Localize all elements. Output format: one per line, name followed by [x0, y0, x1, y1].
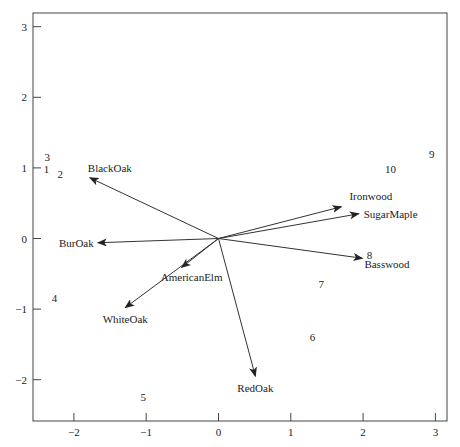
point-label: 8	[367, 249, 373, 261]
y-tick-label: 0	[22, 233, 28, 245]
vector-basswood: Basswood	[219, 239, 411, 271]
vector-buroak: BurOak	[59, 237, 219, 249]
vector-label: BlackOak	[88, 162, 132, 174]
arrow-icon	[219, 239, 363, 259]
vector-label: AmericanElm	[161, 271, 223, 283]
vector-americanelm: AmericanElm	[161, 239, 223, 284]
point-label: 3	[44, 151, 50, 163]
arrow-icon	[219, 214, 359, 239]
x-axis: −2−10123	[68, 413, 439, 438]
vector-label: SugarMaple	[364, 208, 418, 220]
x-tick-label: −1	[140, 426, 152, 438]
y-tick-label: 2	[22, 91, 28, 103]
point-label: 2	[57, 168, 63, 180]
y-tick-label: −1	[15, 303, 27, 315]
arrow-icon	[219, 207, 342, 239]
point-label: 10	[385, 163, 397, 175]
vector-label: WhiteOak	[103, 313, 149, 325]
arrow-icon	[98, 239, 219, 243]
observation-points: 12345678910	[44, 148, 435, 404]
y-tick-label: −2	[15, 374, 27, 386]
vector-blackoak: BlackOak	[88, 162, 219, 239]
vector-label: Ironwood	[349, 190, 392, 202]
x-tick-label: 3	[433, 426, 439, 438]
y-tick-label: 3	[22, 21, 28, 33]
x-tick-label: −2	[68, 426, 80, 438]
vector-label: RedOak	[237, 382, 274, 394]
x-tick-label: 0	[216, 426, 222, 438]
x-tick-label: 1	[288, 426, 294, 438]
point-label: 1	[44, 163, 50, 175]
biplot-chart: −2−10123 −2−10123 BlackOakBurOakAmerican…	[0, 0, 460, 447]
point-label: 4	[52, 292, 58, 304]
point-label: 6	[310, 331, 316, 343]
loading-vectors: BlackOakBurOakAmericanElmWhiteOakRedOakI…	[59, 162, 418, 394]
x-tick-label: 2	[360, 426, 366, 438]
arrow-icon	[90, 178, 219, 239]
point-label: 5	[141, 391, 147, 403]
y-tick-label: 1	[22, 162, 28, 174]
arrow-icon	[219, 239, 256, 377]
vector-label: BurOak	[59, 237, 94, 249]
point-label: 7	[318, 278, 324, 290]
y-axis: −2−10123	[15, 21, 41, 386]
vector-redoak: RedOak	[219, 239, 274, 395]
point-label: 9	[429, 148, 435, 160]
